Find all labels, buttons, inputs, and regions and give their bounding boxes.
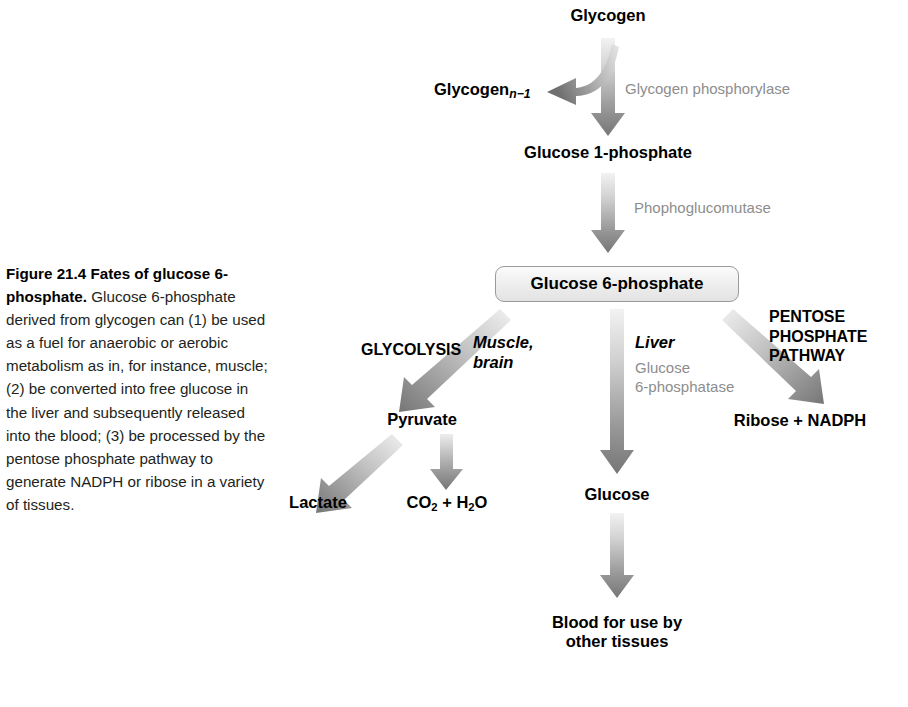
arrow-g6p-to-glucose	[600, 309, 634, 474]
node-pyruvate-label: Pyruvate	[387, 410, 457, 428]
node-pyruvate: Pyruvate	[372, 410, 472, 429]
enzyme-glycogen-phosphorylase: Glycogen phosphorylase	[625, 80, 790, 99]
node-blood-for-use: Blood for use by other tissues	[517, 613, 717, 652]
enzyme-phosphoglucomutase-label: Phophoglucomutase	[634, 199, 771, 216]
enzyme-glycogen-phosphorylase-label: Glycogen phosphorylase	[625, 80, 790, 97]
node-g6p-label: Glucose 6-phosphate	[531, 274, 704, 294]
tissue-muscle-line-1: Muscle,	[473, 333, 534, 353]
node-glycogen-n1-subscript: n−1	[509, 87, 530, 101]
node-co2-label: CO	[407, 493, 432, 511]
node-glycogen-n1-label: Glycogen	[434, 80, 509, 98]
pathway-pentose-line-3: PATHWAY	[769, 346, 867, 366]
node-ribose-nadph-label: Ribose + NADPH	[734, 411, 866, 429]
node-glucose-label: Glucose	[584, 485, 649, 503]
enzyme-phosphoglucomutase: Phophoglucomutase	[634, 199, 771, 218]
node-h2o-suffix: O	[475, 493, 488, 511]
node-lactate-label: Lactate	[289, 493, 347, 511]
node-plus-sign: +	[438, 493, 457, 511]
tissue-liver: Liver	[635, 333, 674, 353]
pathway-pentose-phosphate: PENTOSE PHOSPHATE PATHWAY	[769, 307, 867, 366]
arrow-branch-to-glycogen-n1	[547, 44, 619, 105]
enzyme-g6pase-line-1: Glucose	[635, 359, 734, 378]
pathway-glycolysis-label: GLYCOLYSIS	[361, 341, 461, 358]
tissue-muscle-brain: Muscle, brain	[473, 333, 534, 373]
arrow-pyruvate-to-co2	[430, 434, 463, 490]
tissue-liver-label: Liver	[635, 333, 674, 351]
node-blood-line-1: Blood for use by	[517, 613, 717, 632]
node-blood-line-2: other tissues	[517, 632, 717, 651]
pathway-pentose-line-2: PHOSPHATE	[769, 327, 867, 347]
arrow-g1p-to-g6p	[591, 173, 625, 253]
caption-body: Glucose 6-phosphate derived from glycoge…	[6, 288, 268, 513]
pathway-glycolysis: GLYCOLYSIS	[361, 340, 461, 360]
enzyme-glucose-6-phosphatase: Glucose 6-phosphatase	[635, 359, 734, 397]
figure-caption: Figure 21.4 Fates of glucose 6-phosphate…	[6, 262, 268, 516]
node-glucose-6-phosphate-box: Glucose 6-phosphate	[495, 266, 739, 302]
node-glycogen: Glycogen	[536, 6, 680, 25]
enzyme-g6pase-line-2: 6-phosphatase	[635, 378, 734, 397]
node-lactate: Lactate	[274, 493, 362, 512]
node-ribose-nadph: Ribose + NADPH	[712, 411, 888, 430]
node-glucose: Glucose	[565, 485, 669, 504]
arrow-glucose-to-blood	[600, 513, 634, 598]
node-glycogen-n-minus-1: Glycogenn−1	[434, 80, 531, 101]
node-glycogen-label: Glycogen	[570, 6, 645, 24]
arrow-glycogen-to-g1p	[591, 38, 625, 136]
tissue-muscle-line-2: brain	[473, 353, 534, 373]
figure-21-4: Figure 21.4 Fates of glucose 6-phosphate…	[0, 0, 908, 707]
node-co2-h2o: CO2 + H2O	[384, 493, 510, 514]
node-glucose-1-phosphate: Glucose 1-phosphate	[488, 143, 728, 162]
node-g1p-label: Glucose 1-phosphate	[524, 143, 692, 161]
pathway-pentose-line-1: PENTOSE	[769, 307, 867, 327]
node-h2o-label: H	[456, 493, 468, 511]
